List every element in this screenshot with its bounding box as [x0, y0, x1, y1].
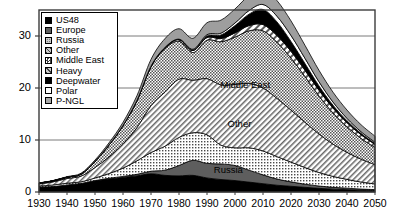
y-tick-label: 30: [5, 29, 31, 41]
legend-swatch-icon: [45, 37, 52, 44]
legend-item-europe[interactable]: Europe: [45, 25, 114, 35]
legend-swatch-icon: [45, 77, 52, 84]
legend-label: P-NGL: [56, 96, 84, 106]
stacked-area-chart: 0 10 20 30 19301940195019601970198019902…: [0, 0, 399, 219]
legend-swatch-icon: [45, 47, 52, 54]
legend-swatch-icon: [45, 67, 52, 74]
legend-label: Deepwater: [56, 76, 100, 86]
legend-swatch-icon: [45, 87, 52, 94]
legend-item-middle-east[interactable]: Middle East: [45, 55, 114, 65]
legend-item-p-ngl[interactable]: P-NGL: [45, 96, 114, 106]
legend-swatch-icon: [45, 57, 52, 64]
legend-item-russia[interactable]: Russia: [45, 35, 114, 45]
area-label: Other: [228, 118, 252, 129]
legend-label: Polar: [56, 86, 77, 96]
legend-label: Middle East: [56, 55, 104, 65]
legend-item-heavy[interactable]: Heavy: [45, 65, 114, 75]
y-tick-label: 10: [5, 133, 31, 145]
legend-label: Russia: [56, 35, 84, 45]
legend-label: Heavy: [56, 66, 82, 76]
y-tick-label: 20: [5, 81, 31, 93]
y-tick-label: 0: [5, 185, 31, 197]
legend-item-deepwater[interactable]: Deepwater: [45, 76, 114, 86]
chart-root: 0 10 20 30 19301940195019601970198019902…: [0, 0, 399, 219]
chart-legend: US48 Europe Russia Other Middle East Hea…: [41, 12, 118, 109]
legend-label: Other: [56, 45, 79, 55]
legend-item-us48[interactable]: US48: [45, 15, 114, 25]
legend-label: Europe: [56, 25, 86, 35]
legend-item-other[interactable]: Other: [45, 45, 114, 55]
legend-item-polar[interactable]: Polar: [45, 86, 114, 96]
legend-swatch-icon: [45, 27, 52, 34]
area-label: Russia: [214, 164, 243, 175]
legend-swatch-icon: [45, 17, 52, 24]
legend-label: US48: [56, 15, 79, 25]
area-label: Middle East: [220, 79, 270, 90]
x-tick-label: 2050: [358, 197, 392, 209]
legend-swatch-icon: [45, 97, 52, 104]
